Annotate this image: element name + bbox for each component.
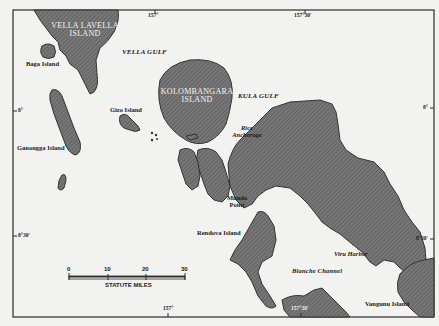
coord-left-8: 8°: [18, 108, 23, 114]
scale-tick-10: 10: [104, 266, 111, 272]
label-vella-gulf: VELLA GULF: [122, 49, 167, 56]
label-kula-gulf: KULA GULF: [238, 93, 279, 100]
label-rice-anchorage: Rice Anchorage: [226, 125, 268, 138]
coord-left-8-30: 8°30': [18, 233, 30, 239]
scale-tick-30: 30: [181, 266, 188, 272]
coord-top-157: 157°: [148, 13, 158, 19]
label-rendova-island: Rendova Island: [197, 230, 241, 237]
label-line: ISLAND: [160, 96, 234, 104]
label-line: Anchorage: [226, 132, 268, 139]
scale-unit-label: STATUTE MILES: [105, 282, 152, 288]
coord-right-8: 8°: [423, 105, 428, 111]
island-tetepare[interactable]: [282, 288, 350, 317]
scale-tick-20: 20: [142, 266, 149, 272]
coord-top-157-30: 157°30': [294, 13, 311, 19]
island-simbo[interactable]: [58, 175, 66, 190]
label-gizo-island: Gizo Island: [110, 107, 142, 114]
label-munda-point: Munda Point: [222, 195, 252, 208]
label-vangunu-island: Vangunu Island: [365, 301, 409, 308]
label-viru-harbor: Viru Harbor: [334, 251, 367, 258]
scale-bar: [69, 273, 185, 280]
island-new-georgia-west[interactable]: [196, 148, 230, 202]
label-line: Point: [222, 202, 252, 209]
coord-bottom-157-30: 157°30': [291, 306, 308, 312]
coord-bottom-157: 157°: [163, 306, 173, 312]
map-container: VELLA LAVELLA ISLAND KOLOMBANGARA ISLAND…: [0, 0, 439, 326]
label-baga-island: Baga Island: [26, 61, 59, 68]
island-baga[interactable]: [41, 44, 56, 59]
label-blanche-channel: Blanche Channel: [292, 268, 342, 275]
label-vella-lavella: VELLA LAVELLA ISLAND: [50, 22, 120, 38]
label-kolombangara: KOLOMBANGARA ISLAND: [160, 88, 234, 104]
island-gizo[interactable]: [120, 114, 141, 131]
label-ganongga-island: Ganongga Island: [17, 145, 65, 152]
scale-tick-0: 0: [67, 266, 70, 272]
island-arundel[interactable]: [178, 148, 200, 190]
map-canvas: [0, 0, 439, 326]
label-line: ISLAND: [50, 30, 120, 38]
island-rendova[interactable]: [230, 212, 276, 309]
coord-right-8-30: 8°30': [416, 236, 428, 242]
islets-near-gizo: [151, 132, 158, 141]
